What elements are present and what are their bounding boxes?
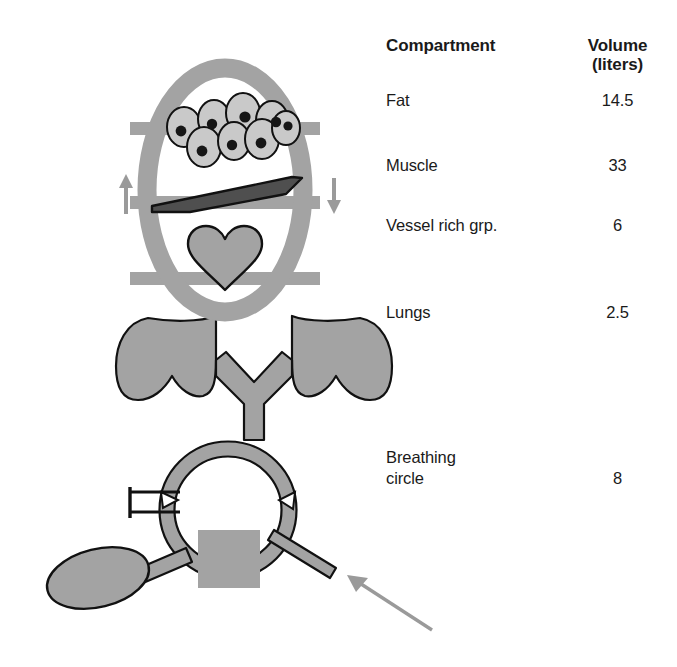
row-label-breathing-circle: Breathing circle — [386, 447, 456, 489]
table-row: Fat 14.5 — [380, 90, 670, 112]
figure-root: Compartment Volume (liters) Fat 14.5 Mus… — [0, 0, 677, 667]
row-value-breathing-circle: 8 — [565, 468, 670, 489]
column-header-volume: Volume (liters) — [565, 36, 670, 74]
co2-absorber-canister — [198, 530, 260, 588]
row-label-fat: Fat — [386, 90, 410, 111]
row-value-muscle: 33 — [565, 155, 670, 176]
fat-cells-cluster — [167, 93, 300, 167]
column-header-volume-units: (liters) — [565, 55, 670, 74]
reservoir-bag — [41, 537, 192, 618]
right-down-arrow — [327, 178, 341, 214]
column-header-volume-main: Volume — [588, 36, 648, 55]
table-header-row: Compartment Volume (liters) — [380, 28, 670, 90]
table-row: Lungs 2.5 — [380, 302, 670, 324]
trachea-tube — [216, 352, 292, 440]
table-row: Vessel rich grp. 6 — [380, 215, 670, 237]
row-label-lungs: Lungs — [386, 302, 430, 323]
row-label-muscle: Muscle — [386, 155, 438, 176]
column-header-compartment: Compartment — [386, 36, 495, 56]
row-label-vessel-rich-group: Vessel rich grp. — [386, 215, 497, 236]
row-value-lungs: 2.5 — [565, 302, 670, 323]
row-value-vessel-rich-group: 6 — [565, 215, 670, 236]
compartment-volume-table: Compartment Volume (liters) Fat 14.5 Mus… — [380, 28, 670, 90]
fresh-gas-inflow-pointer-icon — [347, 575, 432, 630]
row-value-fat: 14.5 — [565, 90, 670, 111]
table-row: Breathing circle 8 — [380, 447, 670, 491]
table-row: Muscle 33 — [380, 155, 670, 177]
